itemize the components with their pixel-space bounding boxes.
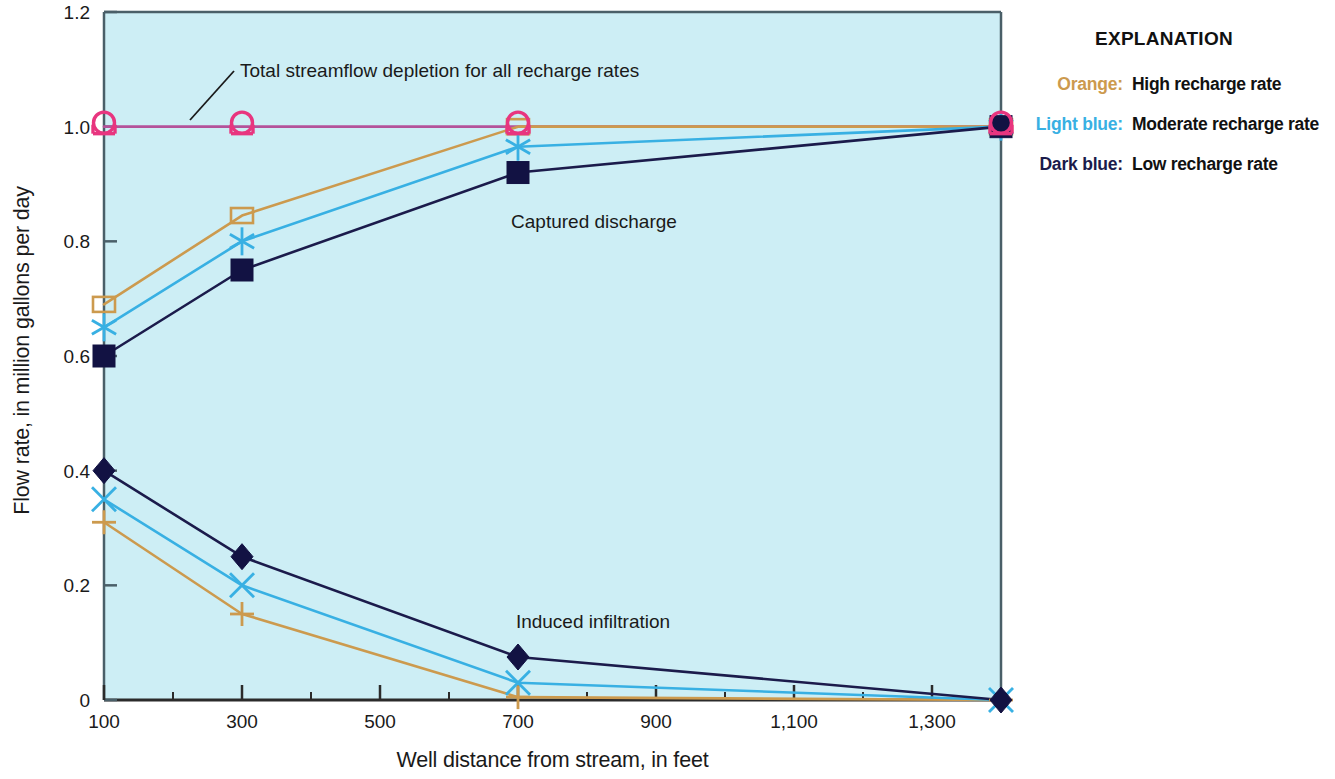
- y-tick-label-2: 0.4: [64, 461, 91, 482]
- legend-key-0: Orange:: [1005, 74, 1132, 95]
- legend-row-1: Light blue:Moderate recharge rate: [1005, 114, 1335, 135]
- x-tick-label-1: 300: [226, 711, 258, 732]
- y-tick-label-3: 0.6: [64, 346, 90, 367]
- chart-figure: 00.20.40.60.81.01.21003005007009001,1001…: [0, 0, 1335, 779]
- legend-rows: Orange:High recharge rateLight blue:Mode…: [1005, 74, 1335, 175]
- legend-value-2: Low recharge rate: [1132, 154, 1278, 175]
- legend-title: EXPLANATION: [1005, 28, 1335, 50]
- marker-s3-p0: [93, 345, 115, 367]
- legend-row-2: Dark blue:Low recharge rate: [1005, 154, 1335, 175]
- x-tick-label-3: 700: [502, 711, 534, 732]
- x-tick-label-4: 900: [640, 711, 672, 732]
- y-axis-title: Flow rate, in million gallons per day: [10, 186, 35, 514]
- y-tick-label-1: 0.2: [64, 575, 90, 596]
- legend-value-1: Moderate recharge rate: [1132, 114, 1319, 135]
- y-tick-label-6: 1.2: [64, 2, 90, 23]
- x-tick-label-2: 500: [364, 711, 396, 732]
- legend-key-1: Light blue:: [1005, 114, 1132, 135]
- marker-s3-p2: [507, 162, 529, 184]
- legend-key-2: Dark blue:: [1005, 154, 1132, 175]
- plot-area-background: [104, 12, 1001, 700]
- annotation-label-0: Total streamflow depletion for all recha…: [240, 60, 639, 81]
- x-tick-label-0: 100: [88, 711, 120, 732]
- annotation-label-2: Induced infiltration: [516, 611, 670, 632]
- legend-row-0: Orange:High recharge rate: [1005, 74, 1335, 95]
- x-tick-label-6: 1,300: [908, 711, 956, 732]
- y-tick-label-0: 0: [79, 690, 90, 711]
- annotation-label-1: Captured discharge: [511, 211, 677, 232]
- marker-s3-p1: [231, 259, 253, 281]
- x-axis-title: Well distance from stream, in feet: [104, 748, 1001, 773]
- figure-root: 00.20.40.60.81.01.21003005007009001,1001…: [0, 0, 1335, 779]
- y-axis-title-wrap: Flow rate, in million gallons per day: [2, 0, 42, 700]
- y-tick-label-5: 1.0: [64, 117, 90, 138]
- x-tick-label-5: 1,100: [770, 711, 818, 732]
- legend: EXPLANATION Orange:High recharge rateLig…: [1005, 18, 1335, 194]
- legend-value-0: High recharge rate: [1132, 74, 1281, 95]
- y-tick-label-4: 0.8: [64, 231, 90, 252]
